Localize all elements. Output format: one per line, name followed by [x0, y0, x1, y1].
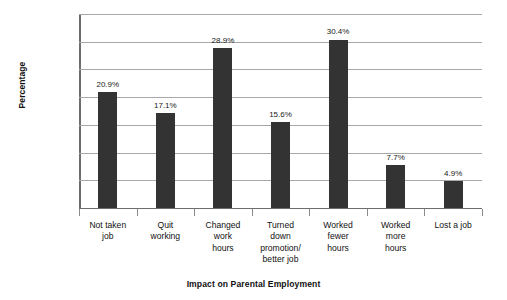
gridline [79, 69, 482, 70]
bar-value-label: 17.1% [154, 101, 177, 110]
bar-chart: Percentage 00.050.10.150.20.250.30.35 No… [0, 0, 507, 300]
bar[interactable] [213, 48, 232, 208]
bar-value-label: 15.6% [269, 110, 292, 119]
x-axis-category-label: Lost a job [418, 220, 488, 231]
x-axis-tick [424, 209, 425, 216]
bar-value-label: 28.9% [212, 36, 235, 45]
bar[interactable] [271, 122, 290, 208]
bar[interactable] [156, 113, 175, 208]
y-axis-title: Percentage [15, 35, 29, 135]
x-axis-category-label-line: more [361, 231, 431, 242]
x-axis-title: Impact on Parental Employment [0, 279, 507, 289]
bar-value-label: 7.7% [387, 153, 405, 162]
bar[interactable] [98, 92, 117, 208]
x-axis-tick [367, 209, 368, 216]
gridline [79, 97, 482, 98]
bar-value-label: 4.9% [444, 169, 462, 178]
x-axis-category-label-line: hours [361, 243, 431, 254]
bar[interactable] [386, 165, 405, 208]
x-axis-tick [137, 209, 138, 216]
gridline [79, 14, 482, 15]
x-axis-category-label-line: Lost a job [418, 220, 488, 231]
x-axis-tick [79, 209, 80, 216]
x-axis-tick [194, 209, 195, 216]
x-axis-tick [309, 209, 310, 216]
bar-value-label: 20.9% [96, 80, 119, 89]
x-axis-tick [252, 209, 253, 216]
gridline [79, 42, 482, 43]
x-axis-category-label-line: better job [246, 254, 316, 265]
x-axis-tick [482, 209, 483, 216]
bar-value-label: 30.4% [327, 27, 350, 36]
bar[interactable] [329, 40, 348, 209]
gridline [79, 208, 482, 209]
bar[interactable] [444, 181, 463, 208]
